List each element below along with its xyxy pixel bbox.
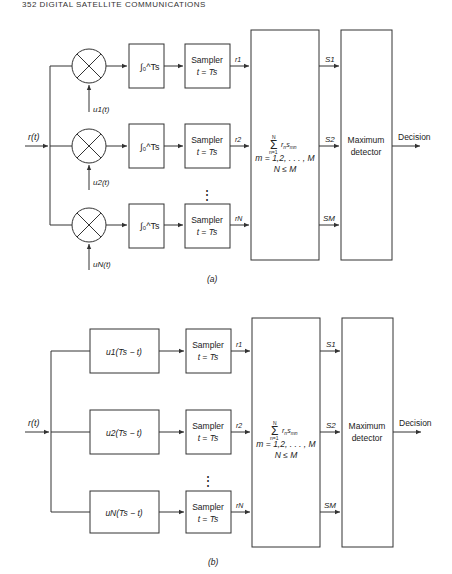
sampler-label: Sampler	[192, 421, 224, 431]
sampler-label: Sampler	[191, 55, 223, 65]
output-rN: rN	[235, 215, 243, 222]
maximum-detector-box-a	[341, 30, 392, 260]
output-r1: r1	[235, 56, 241, 63]
sum-upper-limit: N	[273, 420, 277, 426]
sampler-label: Sampler	[192, 340, 224, 350]
caption-b: (b)	[208, 557, 219, 567]
multiplier-icon	[72, 208, 106, 242]
decision-label: Decision	[398, 132, 431, 142]
output-S2b: S2	[326, 421, 336, 430]
ellipsis-icon: ⋮	[200, 187, 214, 203]
basis-label-1: u1(t)	[93, 105, 110, 114]
sampler-box-N	[185, 204, 230, 248]
receiver-diagrams: r(t) u1(t) ∫₀^Ts Sampler t = Ts r1	[0, 0, 452, 574]
output-S1: S1	[325, 55, 335, 64]
output-rNb: rN	[236, 502, 244, 509]
multiplier-icon	[72, 49, 106, 83]
sampler-label: Sampler	[191, 215, 223, 225]
sampler-box-1b	[186, 329, 231, 373]
combiner-constraint: N ≤ M	[275, 450, 299, 460]
detector-label-2: detector	[352, 433, 383, 443]
output-r1b: r1	[236, 341, 242, 348]
detector-label-2: detector	[351, 147, 382, 157]
sampler-label: Sampler	[192, 502, 224, 512]
filter-label-N: uN(Ts − t)	[105, 508, 142, 518]
diagram-b-matched-filter-receiver: r(t) u1(Ts − t) Sampler t = Ts r1 u2(Ts …	[25, 318, 432, 567]
sum-upper-limit: N	[272, 134, 276, 140]
output-S1b: S1	[326, 340, 336, 349]
sampler-time-label: t = Ts	[197, 67, 218, 77]
diagram-a-correlator-receiver: r(t) u1(t) ∫₀^Ts Sampler t = Ts r1	[25, 30, 431, 284]
detector-label: Maximum	[348, 135, 385, 145]
sampler-time-label: t = Ts	[198, 352, 219, 362]
combiner-constraint: N ≤ M	[274, 164, 298, 174]
branch-2-b: u2(Ts − t) Sampler t = Ts r2	[51, 410, 250, 454]
filter-label-2: u2(Ts − t)	[106, 428, 142, 438]
filter-label-1: u1(Ts − t)	[106, 347, 142, 357]
branch-2-a: u2(t) ∫₀^Ts Sampler t = Ts r2	[50, 124, 249, 190]
integrator-label-1: ∫₀^Ts	[139, 62, 160, 72]
branch-1-b: u1(Ts − t) Sampler t = Ts r1	[51, 329, 250, 373]
sampler-time-label: t = Ts	[198, 433, 219, 443]
sampler-box-Nb	[186, 491, 231, 533]
branch-1-a: u1(t) ∫₀^Ts Sampler t = Ts r1	[50, 44, 249, 114]
sampler-box-2b	[186, 410, 231, 454]
output-SMb: SM	[324, 501, 336, 510]
sampler-label: Sampler	[191, 135, 223, 145]
sampler-time-label: t = Ts	[198, 514, 219, 524]
integrator-label-N: ∫₀^Ts	[139, 221, 160, 231]
sampler-box-1	[185, 44, 230, 88]
output-r2b: r2	[236, 422, 242, 429]
branch-N-b: uN(Ts − t) Sampler t = Ts rN	[51, 491, 250, 533]
branch-N-a: uN(t) ∫₀^Ts Sampler t = Ts rN	[50, 204, 249, 270]
input-label-a: r(t)	[28, 132, 40, 142]
basis-label-2: u2(t)	[93, 178, 110, 187]
multiplier-icon	[72, 129, 106, 163]
detector-label: Maximum	[349, 421, 386, 431]
output-SM: SM	[323, 214, 335, 223]
ellipsis-icon: ⋮	[201, 473, 215, 489]
integrator-label-2: ∫₀^Ts	[139, 142, 160, 152]
sampler-box-2	[185, 124, 230, 168]
sampler-time-label: t = Ts	[197, 147, 218, 157]
combiner-index-range: m = 1,2, . . . , M	[255, 153, 315, 163]
basis-label-N: uN(t)	[93, 260, 111, 269]
input-label-b: r(t)	[28, 418, 40, 428]
decision-label: Decision	[399, 418, 432, 428]
caption-a: (a)	[207, 274, 218, 284]
output-S2: S2	[325, 135, 335, 144]
output-r2: r2	[235, 136, 241, 143]
combiner-index-range: m = 1,2, . . . , M	[256, 439, 316, 449]
sampler-time-label: t = Ts	[197, 227, 218, 237]
